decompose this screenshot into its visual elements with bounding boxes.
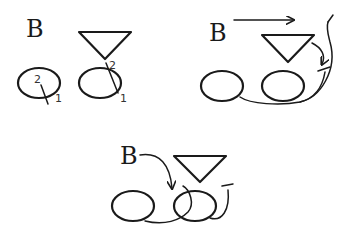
arrow-curved-down — [312, 43, 324, 64]
label-2-right: 2 — [109, 59, 116, 72]
label-1-right: 1 — [120, 92, 127, 105]
letter-b: B — [26, 15, 44, 43]
diagram-canvas: B 2 1 2 1 B B — [0, 0, 353, 235]
tick-mark — [222, 184, 233, 186]
tick-mark — [318, 67, 330, 71]
left-ellipse — [201, 71, 243, 101]
right-ellipse — [174, 191, 216, 221]
tick-mark-top — [328, 15, 333, 22]
right-ellipse — [262, 71, 304, 101]
left-strand — [41, 85, 48, 104]
triangle-shape — [174, 156, 226, 182]
strand-through — [145, 186, 191, 223]
left-ellipse — [112, 191, 154, 221]
arrow-curved — [140, 155, 172, 188]
letter-b: B — [209, 19, 227, 47]
panel-3: B — [112, 142, 233, 223]
label-2-left: 2 — [34, 73, 41, 86]
letter-b: B — [120, 142, 138, 170]
panel-2: B — [201, 15, 333, 104]
triangle-shape — [262, 35, 314, 62]
triangle-shape — [79, 32, 131, 59]
panel-1: B 2 1 2 1 — [18, 15, 131, 105]
label-1-left: 1 — [55, 92, 62, 105]
strand-lower — [240, 72, 325, 104]
